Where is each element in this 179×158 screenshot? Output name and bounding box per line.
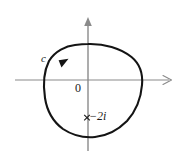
pole-label: −2i xyxy=(89,110,106,122)
figure-canvas xyxy=(0,0,179,158)
contour-direction-arrow-icon xyxy=(59,59,69,68)
real-axis xyxy=(15,76,172,85)
origin-label: 0 xyxy=(75,82,81,94)
imaginary-axis-arrow-icon xyxy=(84,17,92,26)
complex-plane-figure: c 0 −2i xyxy=(0,0,179,158)
contour-path xyxy=(44,44,142,137)
imaginary-axis xyxy=(84,17,92,151)
contour-curve-c xyxy=(44,44,142,137)
contour-label: c xyxy=(41,53,46,64)
